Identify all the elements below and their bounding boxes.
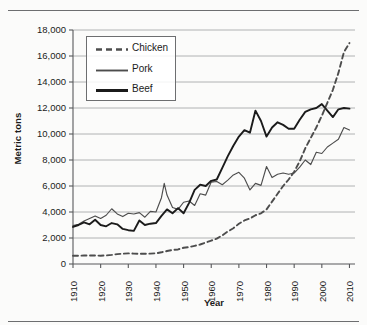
y-axis-tick-label: 18,000 [0,24,66,36]
legend-item-pork: Pork [94,61,174,79]
y-axis-tick-label-text: 4,000 [0,206,66,217]
x-axis-tick-label-text: 1990 [289,272,300,312]
chart-legend: Chicken Pork Beef [86,36,176,101]
x-axis-tick-label-text: 2010 [344,272,355,312]
x-axis-tick-label-text: 1910 [68,272,79,312]
x-axis-tick-label-text: 1950 [178,272,189,312]
y-axis-tick-label: 2,000 [0,232,66,244]
y-axis-tick-label: 4,000 [0,206,66,218]
y-axis-tick-label-text: 16,000 [0,50,66,61]
y-axis-tick-label: 16,000 [0,50,66,62]
x-axis-tick-label: 2010 [329,286,367,298]
legend-label-pork: Pork [132,63,153,74]
y-axis-tick-label-text: 10,000 [0,128,66,139]
x-axis-tick-label-text: 1980 [261,272,272,312]
x-axis-tick-label-text: 1920 [95,272,106,312]
y-axis-tick-label: 12,000 [0,102,66,114]
y-axis-tick-label: 10,000 [0,128,66,140]
legend-label-chicken: Chicken [132,42,168,53]
y-axis-tick-label-text: 14,000 [0,76,66,87]
y-axis-tick-label: 6,000 [0,180,66,192]
y-axis-tick-label: 14,000 [0,76,66,88]
legend-item-chicken: Chicken [94,40,174,58]
x-axis-tick-label-text: 1930 [123,272,134,312]
top-divider-rule [8,10,359,11]
x-axis-tick-label-text: 1960 [206,272,217,312]
legend-swatch-beef [96,89,128,92]
x-axis-tick-label-text: 1970 [233,272,244,312]
y-axis-tick-label-text: 8,000 [0,154,66,165]
x-axis-tick-label-text: 1940 [150,272,161,312]
legend-label-beef: Beef [132,83,153,94]
y-axis-tick-label: 8,000 [0,154,66,166]
legend-swatch-pork [96,69,128,72]
y-axis-tick-label-text: 6,000 [0,180,66,191]
y-axis-tick-label: 0 [0,258,66,270]
y-axis-tick-label-text: 2,000 [0,232,66,243]
legend-swatch-chicken [96,48,128,51]
y-axis-tick-label-text: 0 [0,258,66,269]
x-axis-tick-label-text: 2000 [316,272,327,312]
legend-item-beef: Beef [94,81,174,99]
y-axis-tick-label-text: 12,000 [0,102,66,113]
chart-figure: Metric tons Year 02,0004,0006,0008,00010… [0,0,367,325]
y-axis-tick-label-text: 18,000 [0,24,66,35]
bottom-divider-rule [8,321,359,322]
